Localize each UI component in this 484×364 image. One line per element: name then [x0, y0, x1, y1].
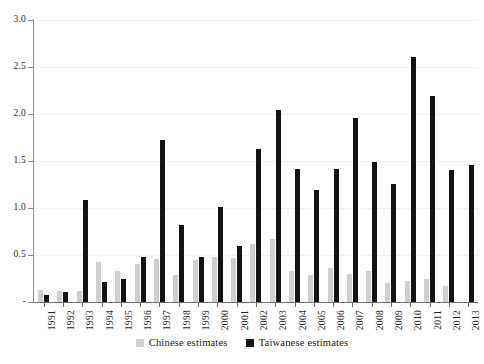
bar-taiwanese-1996 [141, 257, 146, 302]
bar-taiwanese-1999 [199, 257, 204, 302]
legend-label: Taiwanese estimates [259, 337, 349, 348]
bar-taiwanese-2009 [391, 184, 396, 302]
year-group-2009 [381, 20, 400, 302]
bar-taiwanese-1998 [179, 225, 184, 302]
bar-chart: 3.02.52.01.51.00.5- 19911992199319941995… [0, 0, 484, 364]
year-group-2011 [420, 20, 439, 302]
bar-taiwanese-2010 [411, 57, 416, 302]
bar-chinese-2012 [443, 286, 448, 302]
x-axis-tick [314, 303, 315, 307]
bar-taiwanese-1994 [102, 282, 107, 302]
year-group-2005 [304, 20, 323, 302]
x-axis-tick [179, 303, 180, 307]
bar-taiwanese-1993 [83, 200, 88, 302]
year-group-1997 [150, 20, 169, 302]
year-group-1995 [111, 20, 130, 302]
bar-chinese-1992 [57, 291, 62, 302]
year-group-1999 [188, 20, 207, 302]
x-axis-tick [256, 303, 257, 307]
x-axis-tick [430, 303, 431, 307]
year-group-2002 [246, 20, 265, 302]
x-axis-tick [333, 303, 334, 307]
bar-taiwanese-1995 [121, 279, 126, 302]
legend-item-taiwanese: Taiwanese estimates [246, 337, 349, 348]
y-axis-label: - [0, 296, 26, 306]
bar-chinese-2007 [347, 274, 352, 302]
chinese-swatch [136, 339, 144, 347]
bar-chinese-1994 [96, 262, 101, 302]
year-group-2010 [401, 20, 420, 302]
year-group-2000 [208, 20, 227, 302]
x-axis-tick [44, 303, 45, 307]
chart-legend: Chinese estimatesTaiwanese estimates [0, 337, 484, 348]
bar-chinese-2009 [385, 283, 390, 302]
year-group-2008 [362, 20, 381, 302]
year-group-2003 [266, 20, 285, 302]
year-group-2004 [285, 20, 304, 302]
year-group-1996 [130, 20, 149, 302]
bar-chinese-2005 [308, 275, 313, 302]
taiwanese-swatch [246, 339, 254, 347]
year-group-2001 [227, 20, 246, 302]
bar-chinese-2003 [270, 239, 275, 302]
x-axis-tick [372, 303, 373, 307]
x-axis-tick [82, 303, 83, 307]
bar-taiwanese-1992 [63, 292, 68, 302]
bar-taiwanese-2001 [237, 246, 242, 302]
x-axis-tick [449, 303, 450, 307]
year-group-2007 [343, 20, 362, 302]
x-axis-tick [102, 303, 103, 307]
year-group-1992 [53, 20, 72, 302]
year-group-1991 [34, 20, 53, 302]
year-group-1993 [73, 20, 92, 302]
year-group-1994 [92, 20, 111, 302]
x-axis-tick [295, 303, 296, 307]
year-group-2006 [323, 20, 342, 302]
x-axis-tick [217, 303, 218, 307]
y-axis-label: 1.0 [0, 202, 26, 212]
x-axis-tick [121, 303, 122, 307]
bar-taiwanese-2005 [314, 190, 319, 302]
y-axis-label: 3.0 [0, 14, 26, 24]
legend-item-chinese: Chinese estimates [136, 337, 228, 348]
bar-taiwanese-2002 [256, 149, 261, 302]
y-axis-label: 2.5 [0, 61, 26, 71]
bar-chinese-1999 [193, 260, 198, 302]
x-axis-tick [198, 303, 199, 307]
bar-chinese-1997 [154, 259, 159, 302]
bar-taiwanese-2008 [372, 162, 377, 302]
bar-chinese-1998 [173, 275, 178, 302]
bar-chinese-2002 [250, 244, 255, 302]
bar-chinese-1991 [38, 290, 43, 302]
y-axis-label: 1.5 [0, 155, 26, 165]
bar-taiwanese-2007 [353, 118, 358, 302]
x-axis-tick [275, 303, 276, 307]
bar-chinese-2006 [328, 268, 333, 302]
x-axis-tick [352, 303, 353, 307]
year-group-2012 [439, 20, 458, 302]
bar-chinese-2010 [405, 281, 410, 302]
legend-label: Chinese estimates [149, 337, 228, 348]
year-group-2013 [459, 20, 478, 302]
bar-taiwanese-1991 [44, 295, 49, 302]
x-axis-tick [63, 303, 64, 307]
x-axis-label-2013: 2013 [471, 310, 481, 330]
x-axis-tick [468, 303, 469, 307]
x-axis-tick [140, 303, 141, 307]
bar-chinese-2004 [289, 271, 294, 302]
bar-chinese-2000 [212, 257, 217, 302]
x-axis-tick [391, 303, 392, 307]
bar-taiwanese-2006 [334, 169, 339, 302]
year-group-1998 [169, 20, 188, 302]
bar-chinese-2011 [424, 279, 429, 302]
bar-taiwanese-1997 [160, 140, 165, 302]
bar-chinese-1993 [77, 291, 82, 302]
bar-chinese-1995 [115, 271, 120, 302]
bar-chinese-2001 [231, 258, 236, 302]
y-axis-label: 0.5 [0, 249, 26, 259]
y-axis-label: 2.0 [0, 108, 26, 118]
x-axis-tick [237, 303, 238, 307]
bar-chinese-2008 [366, 271, 371, 302]
x-axis-tick [410, 303, 411, 307]
x-axis-tick [159, 303, 160, 307]
